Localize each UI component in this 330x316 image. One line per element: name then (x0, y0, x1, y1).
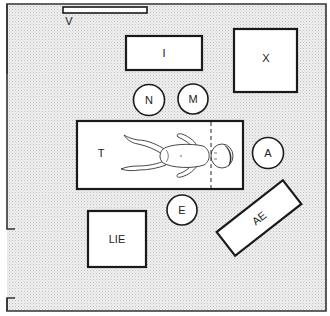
label-t: T (98, 147, 105, 159)
fixture-x: X (234, 29, 297, 92)
fixture-i: I (126, 36, 202, 70)
label-a: A (264, 147, 272, 159)
fixture-m: M (178, 84, 208, 114)
fixture-e: E (167, 195, 197, 225)
fixture-n: N (134, 85, 165, 116)
label-v: V (65, 15, 73, 27)
label-i: I (162, 47, 165, 59)
label-n: N (145, 94, 153, 106)
fixture-lie: LIE (88, 211, 146, 267)
label-e: E (178, 204, 185, 216)
fixture-t-table: T (77, 121, 243, 189)
room-floor-plan: V I X N M T (0, 0, 330, 316)
fixture-a: A (253, 138, 284, 169)
label-m: M (188, 93, 197, 105)
label-x: X (262, 52, 270, 64)
label-lie: LIE (109, 233, 126, 245)
